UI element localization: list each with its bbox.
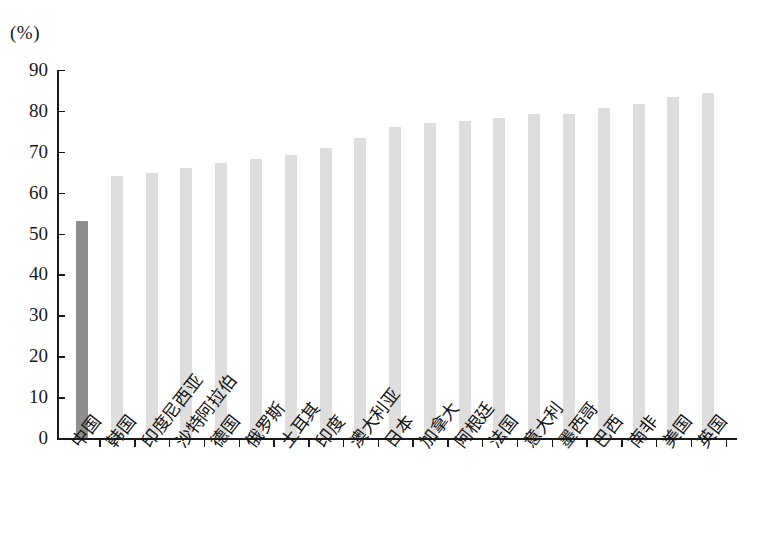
bar [320,148,332,438]
y-tick-label: 40 [29,265,48,284]
y-tick-mark [57,274,65,275]
bar [493,118,505,438]
y-tick-mark [57,356,65,357]
y-tick-label: 90 [29,60,48,79]
y-tick-label: 50 [29,224,48,243]
y-tick-mark [57,70,65,71]
bar [667,97,679,438]
bar [424,123,436,438]
y-tick-mark [57,315,65,316]
bar [354,138,366,438]
x-axis-labels: 中国韩国印度尼西亚沙特阿拉伯德国俄罗斯土耳其印度澳大利亚日本加拿大阿根廷法国意大… [57,440,757,550]
y-axis-line [57,70,59,438]
bar [146,173,158,438]
y-tick-label: 20 [29,346,48,365]
y-tick-mark [57,234,65,235]
bar [633,104,645,438]
plot-area: 0102030405060708090 [57,70,737,438]
bar [285,155,297,438]
bar [563,114,575,438]
bar [702,93,714,438]
y-axis-unit-label: (%) [10,22,40,44]
y-tick-mark [57,193,65,194]
y-tick-mark [57,397,65,398]
y-tick-mark [57,152,65,153]
bar [459,121,471,438]
bar [111,176,123,438]
y-tick-label: 60 [29,183,48,202]
y-tick-label: 30 [29,305,48,324]
bar-chart: (%) 0102030405060708090 中国韩国印度尼西亚沙特阿拉伯德国… [0,0,759,551]
bar [528,114,540,438]
y-tick-label: 10 [29,387,48,406]
y-tick-label: 0 [39,428,49,447]
bar [250,159,262,438]
bar [76,221,88,438]
y-tick-mark [57,111,65,112]
y-tick-label: 70 [29,142,48,161]
bar [598,108,610,438]
y-tick-label: 80 [29,101,48,120]
